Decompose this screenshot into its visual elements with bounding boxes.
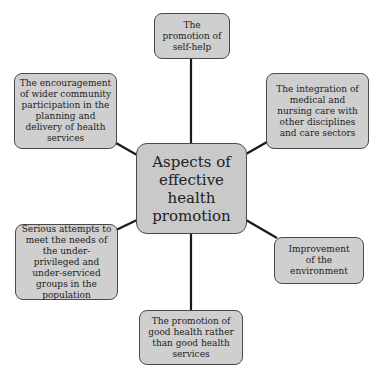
connector-lower-left [116,220,137,230]
node-underprivileged-groups: Serious attempts to meet the needs of th… [15,224,118,300]
connector-upper-right [246,142,267,154]
node-community-participation: The encouragement of wider community par… [14,73,117,149]
node-label: Improvement of the environment [288,244,349,277]
node-label: The integration of medical and nursing c… [271,84,364,139]
node-label: Serious attempts to meet the needs of th… [20,224,113,301]
health-promotion-diagram: The promotion of self-help The encourage… [0,0,379,376]
node-label: The promotion of good health rather than… [144,316,238,360]
central-label: Aspects of effective health promotion [145,153,238,225]
connector-lower-right [246,220,277,238]
node-self-help: The promotion of self-help [154,13,230,59]
node-environment: Improvement of the environment [274,237,364,284]
central-node: Aspects of effective health promotion [136,143,247,234]
connector-upper-left [116,143,137,155]
node-label: The encouragement of wider community par… [19,78,112,144]
node-integration-of-care: The integration of medical and nursing c… [266,73,369,149]
node-label: The promotion of self-help [159,20,225,53]
node-good-health: The promotion of good health rather than… [139,310,243,365]
